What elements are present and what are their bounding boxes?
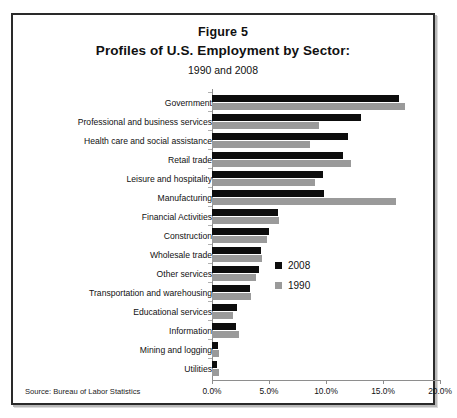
x-tick-mark [383, 380, 384, 384]
y-tick-mark [208, 339, 212, 340]
legend-swatch-2008-icon [275, 262, 282, 269]
bar-2008 [212, 152, 343, 159]
bar-1990 [212, 198, 396, 205]
x-tick-mark [326, 380, 327, 384]
category-label: Transportation and warehousing [89, 288, 212, 298]
bar-1990 [212, 293, 251, 300]
legend-swatch-1990-icon [275, 282, 282, 289]
x-tick-mark [269, 380, 270, 384]
bar-2008 [212, 342, 218, 349]
bar-1990 [212, 255, 262, 262]
x-tick-label: 5.0% [249, 386, 289, 396]
bar-2008 [212, 266, 259, 273]
bar-2008 [212, 133, 348, 140]
y-tick-mark [208, 225, 212, 226]
bar-1990 [212, 312, 233, 319]
y-tick-mark [208, 301, 212, 302]
y-tick-mark [208, 130, 212, 131]
bar-1990 [212, 331, 239, 338]
bar-1990 [212, 274, 256, 281]
bar-1990 [212, 179, 315, 186]
bar-2008 [212, 361, 217, 368]
chart-legend: 2008 1990 [275, 255, 310, 295]
x-tick-mark [212, 380, 213, 384]
x-tick-label: 10.0% [306, 386, 346, 396]
category-label: Leisure and hospitality [126, 174, 212, 184]
bar-2008 [212, 304, 237, 311]
y-tick-mark [208, 149, 212, 150]
category-label: Other services [157, 269, 212, 279]
category-label: Utilities [184, 364, 212, 374]
figure-frame: Figure 5 Profiles of U.S. Employment by … [11, 13, 435, 405]
bar-1990 [212, 160, 351, 167]
y-tick-mark [208, 92, 212, 93]
y-tick-mark [208, 358, 212, 359]
y-tick-mark [208, 282, 212, 283]
bar-1990 [212, 103, 405, 110]
y-tick-mark [208, 206, 212, 207]
y-tick-mark [208, 244, 212, 245]
category-label: Information [169, 326, 212, 336]
plot-area: 0.0%5.0%10.0%15.0%20.0% GovernmentProfes… [13, 15, 437, 407]
bar-2008 [212, 171, 323, 178]
bar-1990 [212, 236, 267, 243]
y-tick-mark [208, 111, 212, 112]
category-label: Retail trade [168, 155, 212, 165]
source-note: Source: Bureau of Labor Statistics [25, 387, 140, 396]
category-label: Mining and logging [140, 345, 212, 355]
bar-2008 [212, 323, 236, 330]
y-tick-mark [208, 168, 212, 169]
legend-item-2008: 2008 [275, 255, 310, 275]
bar-1990 [212, 369, 219, 376]
x-tick-label: 15.0% [363, 386, 403, 396]
bar-1990 [212, 350, 219, 357]
y-tick-mark [208, 263, 212, 264]
y-tick-mark [208, 320, 212, 321]
bar-2008 [212, 114, 361, 121]
x-tick-mark [440, 380, 441, 384]
y-tick-mark [208, 187, 212, 188]
category-label: Manufacturing [158, 193, 212, 203]
bar-1990 [212, 122, 319, 129]
category-label: Construction [164, 231, 212, 241]
category-label: Wholesale trade [150, 250, 212, 260]
bar-2008 [212, 190, 324, 197]
x-tick-label: 20.0% [420, 386, 457, 396]
legend-label-2008: 2008 [288, 260, 310, 271]
category-label: Educational services [133, 307, 212, 317]
bar-1990 [212, 217, 279, 224]
bar-2008 [212, 228, 269, 235]
category-label: Health care and social assistance [84, 136, 212, 146]
bar-2008 [212, 285, 250, 292]
category-label: Government [165, 98, 212, 108]
legend-item-1990: 1990 [275, 275, 310, 295]
category-label: Professional and business services [78, 117, 212, 127]
bar-2008 [212, 209, 278, 216]
bar-1990 [212, 141, 310, 148]
category-label: Financial Activities [142, 212, 212, 222]
bar-2008 [212, 247, 261, 254]
legend-label-1990: 1990 [288, 280, 310, 291]
bar-2008 [212, 95, 399, 102]
x-tick-label: 0.0% [192, 386, 232, 396]
